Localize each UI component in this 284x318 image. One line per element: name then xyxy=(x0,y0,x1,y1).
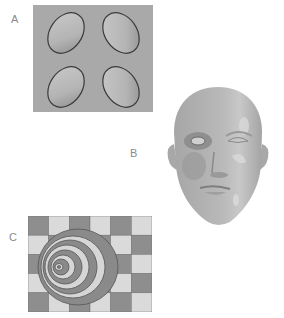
panel-label-c: C xyxy=(9,232,17,243)
checker-cell xyxy=(131,274,152,293)
chin-highlight xyxy=(233,194,239,206)
panel-c-checkerboard xyxy=(28,216,152,312)
panel-label-a: A xyxy=(11,14,18,25)
oval-depressions-illustration xyxy=(33,5,153,112)
checker-cell xyxy=(28,293,49,312)
checker-cell xyxy=(111,216,132,235)
panel-b-head xyxy=(164,86,272,228)
head-illustration xyxy=(164,86,272,228)
checker-cell xyxy=(131,216,152,235)
left-eye xyxy=(191,137,205,145)
panel-label-b: B xyxy=(130,148,137,159)
checker-cell xyxy=(131,254,152,273)
nested-ellipses xyxy=(38,229,118,305)
left-cheek-shadow xyxy=(182,152,206,180)
checker-cell xyxy=(111,293,132,312)
checker-cell xyxy=(131,293,152,312)
checker-cell xyxy=(28,216,49,235)
checkerboard-ellipses-illustration xyxy=(28,216,152,312)
checker-cell xyxy=(131,235,152,254)
panel-a-ovals xyxy=(33,5,153,112)
nose-base xyxy=(210,172,228,178)
